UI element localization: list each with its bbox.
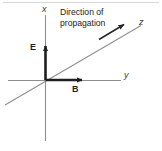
y-axis-label: y <box>124 71 129 80</box>
magnetic-field-label: B <box>72 85 79 94</box>
z-axis-label: z <box>139 18 144 27</box>
caption-line-2: propagation <box>60 18 105 28</box>
electric-field-label: E <box>30 43 36 52</box>
x-axis-label: x <box>42 5 47 14</box>
emwave-figure: x y z E B Direction of propagation <box>0 0 162 151</box>
caption-line-1: Direction of <box>60 7 103 17</box>
propagation-caption: Direction of propagation <box>60 7 122 28</box>
